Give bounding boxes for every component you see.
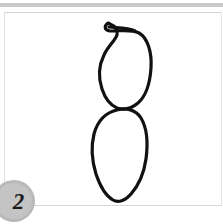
page-number-label: 2	[13, 190, 25, 213]
upper-lobe-with-hook	[100, 23, 152, 109]
top-chrome-strip	[0, 0, 223, 12]
top-chrome-band	[0, 3, 223, 7]
drawing-surface[interactable]	[5, 13, 222, 206]
drawing-canvas[interactable]	[4, 12, 222, 206]
lower-lobe	[92, 109, 147, 201]
app-root: 2	[0, 0, 223, 224]
